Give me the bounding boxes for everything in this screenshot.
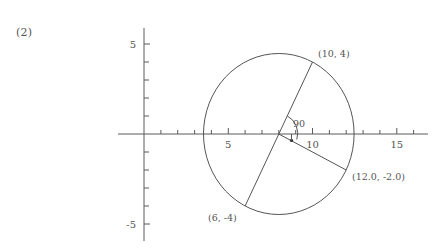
x-tick-label-15: 15 — [390, 139, 403, 150]
point-label-10-4: (10, 4) — [318, 48, 350, 59]
y-tick-label-5: 5 — [130, 39, 136, 50]
coordinate-plot: 5 10 15 5 -5 (10, 4) (12.0, -2.0) (6, -4… — [0, 0, 434, 249]
figure-container: (2) — [0, 0, 434, 249]
x-axis-ticks — [161, 128, 414, 134]
point-label-12-minus2: (12.0, -2.0) — [352, 171, 405, 182]
angle-label-90: 90 — [293, 118, 305, 129]
point-label-6-minus4: (6, -4) — [208, 212, 237, 223]
y-tick-label-minus5: -5 — [126, 219, 136, 230]
x-tick-label-5: 5 — [225, 139, 231, 150]
x-tick-label-10: 10 — [306, 139, 319, 150]
